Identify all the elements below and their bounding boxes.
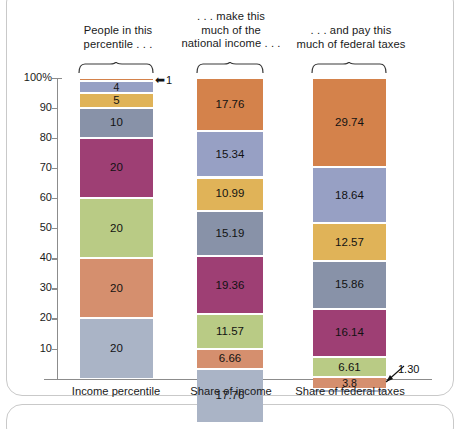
bar-segment: 18.64	[313, 167, 386, 223]
annotation-bottom-tax-share: 1.30	[398, 363, 419, 375]
bar-segment: 15.34	[197, 131, 263, 177]
bar-segment-value: 11.57	[216, 326, 244, 338]
bar-segment-value: 12.57	[335, 237, 364, 249]
brace-icon-column-1	[78, 62, 154, 74]
bar-segment-value: 15.86	[335, 279, 364, 291]
column-header-share-of-federal-taxes: . . . and pay this much of federal taxes	[286, 24, 416, 51]
bar-segment: 20	[80, 258, 153, 318]
bar-segment: 10	[80, 108, 153, 138]
bar-segment: 4	[80, 81, 153, 93]
y-tick-label: 100%	[6, 71, 52, 83]
bar-segment: 20	[80, 138, 153, 198]
y-tick-mark	[52, 228, 58, 229]
bar-share-of-income: 17.7615.3410.9915.1919.3611.576.6617.76	[197, 78, 263, 379]
y-tick-mark	[52, 138, 58, 139]
bar-segment-value: 10	[110, 117, 123, 129]
y-tick-mark	[52, 318, 58, 319]
bar-segment: 20	[80, 198, 153, 258]
column-header-income-percentile: People in this percentile . . .	[58, 24, 178, 51]
annotation-top-one-percent: ⬅1	[155, 73, 172, 87]
y-tick-label: 50	[6, 221, 52, 233]
bar-segment-value: 6.66	[219, 353, 241, 365]
bar-segment: 6.61	[313, 357, 386, 377]
bar-segment-value: 18.64	[335, 190, 364, 202]
bar-segment-value: 20	[110, 343, 123, 355]
chart-figure: People in this percentile . . . . . . ma…	[0, 0, 454, 429]
y-tick-label: 30	[6, 281, 52, 293]
bar-segment: 5	[80, 93, 153, 108]
bar-segment: 17.76	[197, 78, 263, 131]
bar-segment-value: 19.36	[216, 280, 245, 292]
bar-segment: 12.57	[313, 223, 386, 261]
x-category-label-share-of-federal-taxes: Share of federal taxes	[288, 385, 412, 397]
x-category-label-share-of-income: Share of income	[172, 385, 290, 397]
brace-icon-column-3	[311, 62, 387, 74]
bar-segment: 15.86	[313, 261, 386, 309]
column-header-share-of-income: . . . make this much of the national inc…	[172, 10, 290, 51]
bar-segment-value: 16.14	[335, 327, 364, 339]
bar-segment: 19.36	[197, 256, 263, 314]
bar-segment-value: 20	[110, 283, 123, 295]
y-tick-mark	[52, 288, 58, 289]
bar-segment: 10.99	[197, 178, 263, 211]
bar-segment: 11.57	[197, 314, 263, 349]
y-tick-label: 60	[6, 191, 52, 203]
bar-segment-value: 20	[110, 162, 123, 174]
y-tick-mark	[52, 168, 58, 169]
y-tick-label: 70	[6, 161, 52, 173]
y-tick-mark	[52, 349, 58, 350]
y-tick-label: 80	[6, 131, 52, 143]
left-arrow-icon: ⬅	[155, 73, 165, 87]
bar-segment-value: 20	[110, 223, 123, 235]
y-tick-label: 10	[6, 342, 52, 354]
bar-segment: 15.19	[197, 211, 263, 257]
bar-segment: 16.14	[313, 309, 386, 358]
y-tick-label: 90	[6, 101, 52, 113]
brace-icon-column-2	[196, 62, 264, 74]
bar-segment-value: 29.74	[335, 117, 364, 129]
y-tick-mark	[52, 108, 58, 109]
y-tick-label: 40	[6, 251, 52, 263]
y-tick-label: 20	[6, 311, 52, 323]
annotation-top-one-percent-text: 1	[166, 74, 172, 86]
bar-segment-value: 6.61	[338, 362, 360, 374]
bar-income-percentile: 451020202020	[80, 78, 153, 379]
bar-segment: 20	[80, 318, 153, 378]
bar-segment: 29.74	[313, 78, 386, 167]
y-tick-mark	[52, 78, 58, 79]
bar-segment-value: 10.99	[216, 188, 245, 200]
y-tick-mark	[52, 258, 58, 259]
bar-segment-value: 4	[114, 82, 120, 93]
y-tick-mark	[52, 198, 58, 199]
bar-segment-value: 17.76	[216, 99, 245, 111]
bar-segment: 6.66	[197, 349, 263, 369]
x-category-label-income-percentile: Income percentile	[56, 385, 176, 397]
bar-segment-value: 5	[113, 95, 119, 107]
bar-segment-value: 15.34	[216, 149, 245, 161]
bar-share-of-federal-taxes: 29.7418.6412.5715.8616.146.613.8	[313, 78, 386, 379]
bar-segment-value: 15.19	[216, 228, 245, 240]
